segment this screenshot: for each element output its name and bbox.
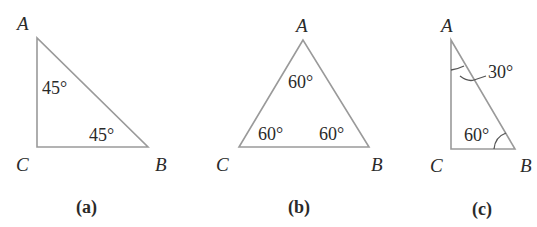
angle-a-A: 45° xyxy=(42,78,67,98)
triangles-diagram: A C B 45° 45° (a) A C B 60° 60° 60° (b) … xyxy=(0,0,537,227)
caption-a: (a) xyxy=(76,197,97,218)
triangle-a: A C B 45° 45° (a) xyxy=(15,13,167,218)
angle-b-A: 60° xyxy=(288,72,313,92)
angle-arc-B xyxy=(494,133,506,149)
vertex-b-C: C xyxy=(216,154,229,175)
vertex-a-C: C xyxy=(16,154,29,175)
triangle-b: A C B 60° 60° 60° (b) xyxy=(216,15,383,218)
angle-c-B: 60° xyxy=(464,125,489,145)
vertex-c-A: A xyxy=(439,15,453,36)
vertex-a-A: A xyxy=(15,13,29,34)
vertex-a-B: B xyxy=(155,154,167,175)
angle-c-A: 30° xyxy=(488,62,513,82)
angle-b-B: 60° xyxy=(319,124,344,144)
angle-a-B: 45° xyxy=(89,125,114,145)
vertex-b-A: A xyxy=(294,15,308,36)
vertex-c-C: C xyxy=(430,155,443,176)
vertex-c-B: B xyxy=(520,155,532,176)
caption-c: (c) xyxy=(472,199,492,220)
angle-arc-A-inner xyxy=(451,66,464,70)
angle-b-C: 60° xyxy=(258,124,283,144)
triangle-c: A C B 30° 60° (c) xyxy=(430,15,532,220)
vertex-b-B: B xyxy=(371,154,383,175)
caption-b: (b) xyxy=(288,197,310,218)
